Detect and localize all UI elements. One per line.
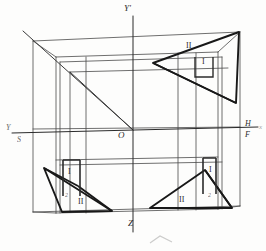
outer-top-back-edge	[33, 32, 240, 41]
bl-bracket	[63, 160, 80, 196]
persp-bottom-left	[33, 212, 56, 213]
region-label-bottom-left-ii: II	[78, 198, 83, 206]
axis-label-s-left: S	[17, 136, 21, 144]
artifact-stroke	[150, 236, 172, 243]
region-label-bottom-left-subscript: 2	[65, 192, 68, 198]
br-outer-triangle	[150, 170, 232, 208]
region-label-bottom-right-ii: II	[179, 196, 184, 204]
region-label-bottom-right-i: I	[209, 166, 212, 174]
region-label-bottom-right-subscript: 2	[208, 192, 211, 198]
inner2-top-edge	[60, 57, 222, 62]
axis-lines	[12, 16, 258, 232]
axis-label-origin: O	[118, 131, 125, 140]
br-inner-edge	[205, 170, 232, 208]
diagonal-lines	[23, 31, 133, 130]
axis-label-y-prime: Y'	[124, 4, 131, 13]
bl-inner-edge	[44, 168, 78, 186]
triangle-bottom-left-bracket	[63, 160, 80, 196]
mid-band-lower2	[60, 162, 222, 165]
box-thin-lines	[33, 32, 240, 213]
region-label-top-right-i: I	[202, 58, 205, 66]
axis-label-x-right: x	[259, 124, 262, 131]
inner3-top-edge	[70, 68, 228, 72]
inner-top-front-edge	[56, 52, 218, 57]
line-drawing	[0, 0, 266, 251]
figure-canvas: Y' Z O Y S H F x II I I 2 II I 2 II	[0, 0, 266, 251]
axis-label-y-left: Y	[6, 124, 10, 132]
bottom-artifact-mark	[150, 236, 172, 243]
region-label-top-right-ii: II	[186, 42, 191, 50]
triangle-bottom-right	[150, 170, 232, 208]
axis-label-h-right: H	[245, 120, 251, 128]
mid-band-lower	[56, 157, 218, 160]
axis-label-f-right: F	[245, 131, 250, 139]
axis-label-z: Z	[128, 219, 133, 228]
secondary-diagonal	[70, 72, 133, 130]
region-label-bottom-left-i: I	[68, 168, 71, 176]
